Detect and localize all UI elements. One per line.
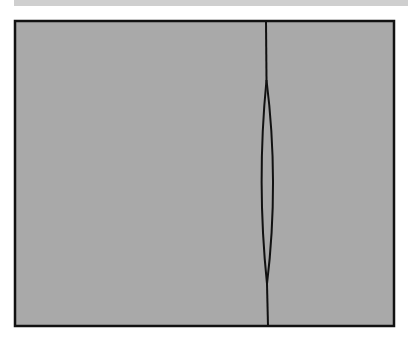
diagram-canvas (0, 0, 408, 340)
divider-line-top (266, 21, 267, 80)
divider-line-bottom (267, 284, 268, 326)
lens-diagram (0, 0, 408, 340)
gray-panel (15, 21, 394, 326)
